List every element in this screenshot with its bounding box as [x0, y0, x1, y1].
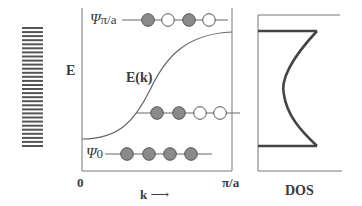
- x-axis-label: k ⟶: [140, 188, 169, 201]
- dispersion-frame: [82, 8, 232, 171]
- k-label: k: [140, 187, 147, 202]
- filled-orbital-icon: [183, 14, 196, 27]
- x-tick-start: 0: [77, 176, 84, 189]
- filled-orbital-icon: [164, 148, 177, 161]
- filled-orbital-icon: [173, 107, 186, 120]
- empty-orbital-icon: [162, 14, 175, 27]
- filled-orbital-icon: [185, 148, 198, 161]
- curve-label: E(k): [126, 71, 152, 85]
- dos-curve: [258, 31, 317, 146]
- filled-orbital-icon: [151, 107, 164, 120]
- filled-orbital-icon: [121, 148, 134, 161]
- empty-orbital-icon: [214, 107, 227, 120]
- x-tick-end: π/a: [222, 176, 239, 189]
- filled-orbital-icon: [142, 14, 155, 27]
- energy-levels-stack: [0, 0, 362, 206]
- psi-subscript: π/a: [101, 12, 117, 27]
- dispersion-curve: [82, 32, 232, 139]
- empty-orbital-icon: [194, 107, 207, 120]
- psi-symbol: Ψ: [86, 145, 97, 161]
- empty-orbital-icon: [203, 14, 216, 27]
- state-label-bottom: Ψ0: [86, 146, 103, 161]
- arrow-right-icon: ⟶: [150, 187, 169, 202]
- psi-subscript: 0: [97, 146, 104, 161]
- psi-symbol: Ψ: [90, 11, 101, 27]
- dos-axis-label: DOS: [285, 184, 314, 198]
- state-label-top: Ψπ/a: [90, 12, 117, 27]
- y-axis-label: E: [66, 64, 75, 78]
- filled-orbital-icon: [143, 148, 156, 161]
- dos-frame: [258, 15, 342, 171]
